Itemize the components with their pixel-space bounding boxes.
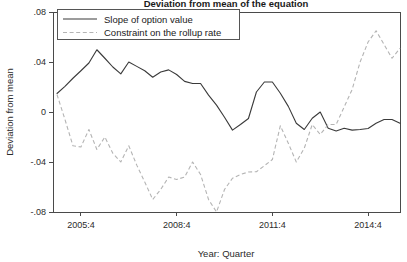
series-line-1 xyxy=(57,50,400,131)
chart-title: Deviation from mean of the equation xyxy=(144,0,309,9)
x-tick-label: 2014:4 xyxy=(354,220,382,230)
legend-label-1: Slope of option value xyxy=(104,14,193,25)
x-tick-label: 2005:4 xyxy=(67,220,95,230)
legend-label-2: Constraint on the rollup rate xyxy=(104,27,221,38)
x-tick-label: 2008:4 xyxy=(163,220,191,230)
y-tick-label: .04 xyxy=(33,57,46,67)
series-line-2 xyxy=(57,31,400,212)
y-tick-label: -.08 xyxy=(30,207,46,217)
y-tick-label: -.04 xyxy=(30,157,46,167)
y-tick-label: 0 xyxy=(41,107,46,117)
chart-legend: Slope of option valueConstraint on the r… xyxy=(57,9,239,39)
x-tick-label: 2011:4 xyxy=(259,220,286,230)
deviation-from-mean-line-chart: Deviation from mean of the equation .08.… xyxy=(0,0,407,262)
chart-container: Deviation from mean of the equation .08.… xyxy=(0,0,407,262)
y-tick-label: .08 xyxy=(33,7,46,17)
x-axis-title: Year: Quarter xyxy=(198,248,255,259)
y-axis: .08.040-.04-.08 xyxy=(30,7,53,217)
x-axis: 2005:42008:42011:42014:4 xyxy=(67,212,382,230)
series-group xyxy=(57,31,400,212)
y-axis-title: Deviation from mean xyxy=(4,68,15,156)
plot-frame xyxy=(53,12,400,212)
